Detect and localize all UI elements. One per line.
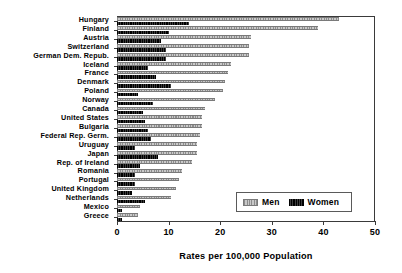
bar-group	[117, 151, 374, 160]
legend-entry-men: Men	[243, 197, 280, 207]
bar-women	[117, 66, 148, 70]
x-axis-tick	[117, 221, 118, 225]
legend-label-women: Women	[308, 197, 340, 207]
bar-group	[117, 142, 374, 151]
bar-group	[117, 88, 374, 97]
bar-group	[117, 97, 374, 106]
bar-women	[117, 75, 156, 79]
bar-women	[117, 57, 166, 61]
bar-women	[117, 146, 135, 150]
bar-group	[117, 70, 374, 79]
x-axis-title: Rates per 100,000 Population	[117, 251, 375, 261]
bar-women	[117, 84, 171, 88]
category-label: Greece	[0, 212, 113, 221]
bar-men	[117, 17, 339, 21]
bar-women	[117, 120, 145, 124]
bar-men	[117, 35, 251, 39]
category-axis-labels: HungaryFinlandAustriaSwitzerlandGerman D…	[0, 16, 113, 221]
x-axis-tick	[323, 221, 324, 225]
bar-group	[117, 124, 374, 133]
women-swatch-icon	[289, 199, 304, 206]
bar-men	[117, 124, 202, 128]
bar-women	[117, 102, 153, 106]
bar-men	[117, 169, 182, 173]
bar-women	[117, 22, 189, 26]
bar-men	[117, 71, 228, 75]
x-axis-line	[117, 221, 375, 222]
bar-women	[117, 39, 161, 43]
bar-group	[117, 160, 374, 169]
bar-women	[117, 48, 166, 52]
bar-men	[117, 205, 140, 209]
chart-legend: Men Women	[236, 192, 352, 212]
bar-group	[117, 177, 374, 186]
bar-women	[117, 182, 135, 186]
x-axis-tick-label: 40	[318, 227, 328, 237]
bar-group	[117, 133, 374, 142]
bar-women	[117, 164, 140, 168]
bar-women	[117, 129, 148, 133]
bar-men	[117, 196, 171, 200]
bar-group	[117, 17, 374, 26]
bar-men	[117, 213, 138, 217]
bar-men	[117, 178, 179, 182]
bar-women	[117, 173, 135, 177]
plot-area	[117, 16, 375, 221]
bar-women	[117, 209, 122, 213]
bar-women	[117, 200, 145, 204]
bar-women	[117, 155, 158, 159]
bar-women	[117, 137, 151, 141]
x-axis-tick-label: 0	[114, 227, 119, 237]
bar-men	[117, 115, 202, 119]
bar-men	[117, 98, 215, 102]
bar-men	[117, 26, 318, 30]
bar-group	[117, 53, 374, 62]
x-axis-tick	[375, 221, 376, 225]
bar-women	[117, 191, 132, 195]
suicide-rates-bar-chart: HungaryFinlandAustriaSwitzerlandGerman D…	[0, 0, 402, 273]
x-axis-tick-label: 10	[163, 227, 173, 237]
bar-group	[117, 115, 374, 124]
bar-women	[117, 31, 169, 35]
bar-men	[117, 133, 200, 137]
bar-men	[117, 62, 231, 66]
bar-men	[117, 89, 223, 93]
bar-men	[117, 53, 249, 57]
men-swatch-icon	[243, 199, 258, 206]
bar-group	[117, 79, 374, 88]
bar-group	[117, 169, 374, 178]
x-axis-tick	[220, 221, 221, 225]
x-axis-tick	[169, 221, 170, 225]
bar-men	[117, 44, 249, 48]
legend-label-men: Men	[262, 197, 280, 207]
legend-entry-women: Women	[289, 197, 340, 207]
bar-men	[117, 160, 192, 164]
bar-group	[117, 26, 374, 35]
bar-group	[117, 106, 374, 115]
x-axis-tick	[272, 221, 273, 225]
bar-men	[117, 151, 197, 155]
bar-women	[117, 93, 138, 97]
bar-group	[117, 62, 374, 71]
bar-group	[117, 44, 374, 53]
bar-men	[117, 80, 225, 84]
bar-group	[117, 35, 374, 44]
x-axis-tick-label: 20	[215, 227, 225, 237]
bar-women	[117, 111, 143, 115]
x-axis-tick-label: 30	[267, 227, 277, 237]
bar-men	[117, 187, 176, 191]
x-axis-tick-label: 50	[370, 227, 380, 237]
bar-men	[117, 142, 197, 146]
bar-men	[117, 107, 205, 111]
